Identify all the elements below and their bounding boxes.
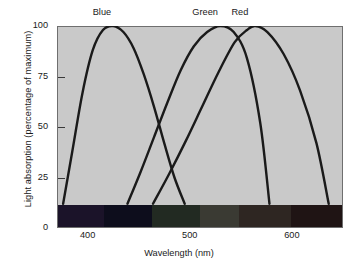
spectrum-segment-orange [239, 205, 292, 227]
x-tick-label: 400 [68, 231, 108, 240]
spectrum-segment-green [152, 205, 200, 227]
x-tick-label: 600 [272, 231, 312, 240]
x-tick-label: 500 [170, 231, 210, 240]
y-tick-label: 100 [14, 21, 48, 30]
spectrum-segment-red [291, 205, 342, 227]
curves-layer [57, 26, 343, 228]
y-tick-label: 25 [14, 173, 48, 182]
absorption-spectrum-figure: Light absorption (percentage of maximum)… [0, 0, 358, 278]
spectrum-segment-violet [58, 205, 104, 227]
y-tick-label: 50 [14, 122, 48, 131]
y-tick-label: 75 [14, 72, 48, 81]
spectrum-segment-yellow [200, 205, 239, 227]
curve-label-red: Red [210, 8, 270, 17]
y-tick-mark [58, 178, 65, 179]
spectrum-segment-blue [104, 205, 153, 227]
y-tick-label: 0 [14, 223, 48, 232]
y-tick-mark [58, 127, 65, 128]
y-tick-mark [58, 77, 65, 78]
curve-red [153, 26, 329, 204]
curve-label-blue: Blue [72, 8, 132, 17]
visible-spectrum-band [58, 205, 342, 227]
y-axis-title: Light absorption (percentage of maximum) [23, 13, 33, 225]
x-axis-title: Wavelength (nm) [0, 248, 358, 258]
